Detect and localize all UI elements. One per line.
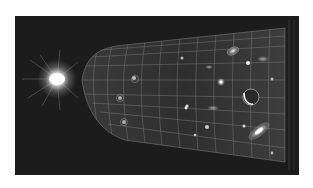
planet [243, 89, 259, 105]
universe-scene [15, 16, 299, 175]
universe-illustration [15, 16, 299, 175]
